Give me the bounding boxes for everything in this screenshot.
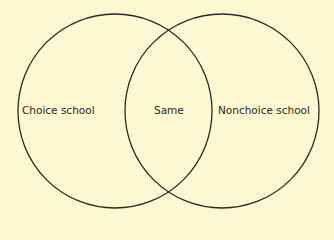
choice-school-label: Choice school bbox=[22, 104, 95, 116]
same-label: Same bbox=[154, 104, 184, 116]
nonchoice-school-label: Nonchoice school bbox=[218, 104, 310, 116]
